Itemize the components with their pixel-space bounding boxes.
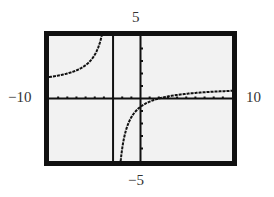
calculator-graph-screen — [44, 31, 237, 166]
ymin-label: −5 — [128, 173, 144, 188]
xmin-label: −10 — [8, 90, 31, 105]
ymax-label: 5 — [132, 10, 140, 25]
xmax-label: 10 — [246, 90, 261, 105]
